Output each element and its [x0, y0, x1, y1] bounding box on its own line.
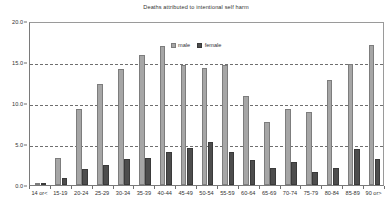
bar-male: [181, 65, 187, 185]
bar-female: [354, 149, 360, 185]
bar-female: [333, 168, 339, 185]
x-tick-mark: [342, 186, 343, 189]
x-tick-mark: [154, 186, 155, 189]
bar-group: [72, 23, 93, 185]
bar-male: [243, 96, 249, 185]
bar-female: [187, 148, 193, 185]
x-tick-mark: [71, 186, 72, 189]
bar-group: [260, 23, 281, 185]
bar-female: [62, 178, 68, 185]
bar-group: [343, 23, 364, 185]
x-tick-label: 90 or>: [366, 190, 382, 196]
bar-group: [301, 23, 322, 185]
x-tick-mark: [321, 186, 322, 189]
y-tick-mark: [24, 186, 27, 187]
bar-male: [76, 109, 82, 185]
x-tick-mark: [217, 186, 218, 189]
y-tick-label: 20.0: [12, 19, 23, 25]
bar-female: [145, 158, 151, 185]
bar-group: [114, 23, 135, 185]
x-tick-mark: [300, 186, 301, 189]
bar-female: [375, 159, 381, 185]
x-tick-mark: [29, 186, 30, 189]
bar-female: [229, 152, 235, 185]
x-tick-label: 50-54: [199, 190, 213, 196]
x-tick-label: 70-74: [283, 190, 297, 196]
x-tick-label: 35-39: [137, 190, 151, 196]
y-tick-label: 15.0: [12, 60, 23, 66]
x-tick-label: 30-34: [116, 190, 130, 196]
y-tick-mark: [24, 22, 27, 23]
x-tick-label: 25-29: [95, 190, 109, 196]
bar-female: [124, 159, 130, 185]
bar-male: [160, 46, 166, 185]
bar-group: [155, 23, 176, 185]
plot-area: [29, 22, 384, 186]
x-tick-label: 45-49: [178, 190, 192, 196]
bar-male: [285, 109, 291, 185]
bar-group: [197, 23, 218, 185]
bar-male: [306, 112, 312, 185]
bar-male: [348, 64, 354, 185]
chart-container: Deaths attributed to intentional self ha…: [0, 0, 392, 216]
bar-group: [322, 23, 343, 185]
bar-female: [103, 165, 109, 186]
bar-female: [270, 168, 276, 185]
bar-male: [97, 84, 103, 185]
bar-male: [202, 68, 208, 185]
x-tick-label: 80-84: [325, 190, 339, 196]
y-tick-mark: [24, 63, 27, 64]
x-tick-mark: [363, 186, 364, 189]
x-tick-label: 60-64: [241, 190, 255, 196]
bar-group: [30, 23, 51, 185]
x-tick-mark: [384, 186, 385, 189]
x-tick-label: 55-59: [220, 190, 234, 196]
x-tick-label: 65-69: [262, 190, 276, 196]
bar-group: [239, 23, 260, 185]
y-tick-mark: [24, 145, 27, 146]
chart-title: Deaths attributed to intentional self ha…: [0, 4, 392, 10]
bar-male: [369, 45, 375, 185]
bar-male: [264, 122, 270, 185]
x-tick-label: 40-44: [158, 190, 172, 196]
x-tick-label: 20-24: [74, 190, 88, 196]
x-tick-mark: [280, 186, 281, 189]
x-tick-label: 85-89: [346, 190, 360, 196]
x-tick-mark: [175, 186, 176, 189]
bars-layer: [30, 23, 383, 185]
x-tick-mark: [259, 186, 260, 189]
y-tick-label: 5.0: [15, 142, 23, 148]
x-tick-mark: [133, 186, 134, 189]
bar-male: [55, 158, 61, 185]
x-tick-label: 14 or<: [31, 190, 47, 196]
bar-male: [118, 69, 124, 185]
x-tick-label: 15-19: [53, 190, 67, 196]
bar-male: [327, 80, 333, 185]
bar-female: [250, 160, 256, 185]
y-tick-label: 0.0: [15, 183, 23, 189]
bar-group: [176, 23, 197, 185]
bar-group: [218, 23, 239, 185]
bar-female: [291, 162, 297, 185]
x-tick-label: 75-79: [304, 190, 318, 196]
bar-male: [35, 183, 41, 185]
x-tick-mark: [196, 186, 197, 189]
x-tick-mark: [50, 186, 51, 189]
bar-female: [41, 183, 47, 185]
y-axis: 0.05.010.015.020.0: [0, 22, 27, 186]
bar-female: [166, 152, 172, 185]
x-axis: 14 or<15-1920-2425-2930-3435-3940-4445-4…: [29, 190, 384, 202]
x-tick-mark: [238, 186, 239, 189]
bar-female: [312, 172, 318, 185]
bar-male: [139, 55, 145, 185]
bar-female: [208, 142, 214, 185]
bar-male: [222, 65, 228, 185]
bar-group: [134, 23, 155, 185]
y-tick-mark: [24, 104, 27, 105]
bar-group: [51, 23, 72, 185]
x-tick-mark: [92, 186, 93, 189]
bar-group: [281, 23, 302, 185]
x-tick-mark: [113, 186, 114, 189]
bar-group: [364, 23, 385, 185]
bar-female: [82, 169, 88, 185]
